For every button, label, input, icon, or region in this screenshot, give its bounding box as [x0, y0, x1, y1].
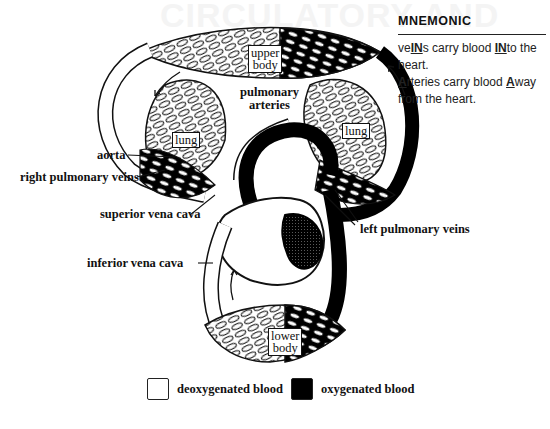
superior-vena-cava-label: superior vena cava — [100, 207, 200, 222]
upper-body-label: upper body — [248, 45, 282, 73]
inferior-vena-cava-label: inferior vena cava — [87, 256, 183, 271]
veins-mid: s carry blood — [423, 41, 495, 55]
pulmonary-arteries-label: pulmonary arteries — [240, 86, 299, 112]
legend-deoxygenated-label: deoxygenated blood — [177, 382, 283, 397]
legend-oxygenated-label: oxygenated blood — [321, 382, 414, 397]
mnemonic-box: MNEMONIC veINs carry blood INto the hear… — [398, 14, 546, 108]
mnemonic-body: veINs carry blood INto the heart. Arteri… — [398, 40, 546, 108]
right-pulmonary-veins-label: right pulmonary veins — [20, 170, 139, 185]
lower-body-line2: body — [271, 342, 299, 354]
legend: deoxygenated blood oxygenated blood — [147, 378, 422, 400]
aorta-label: aorta — [97, 148, 125, 163]
lower-body-label: lower body — [268, 328, 302, 356]
arteries-mid: rteries carry blood — [407, 75, 506, 89]
veins-emphasis-1: IN — [411, 41, 423, 55]
mnemonic-arteries-line: Arteries carry blood Away from the heart… — [398, 74, 546, 108]
veins-emphasis-2: IN — [495, 41, 507, 55]
lung-right-label: lung — [342, 123, 370, 139]
pulmonary-arteries-line2: arteries — [240, 99, 299, 112]
veins-pre: ve — [398, 41, 411, 55]
lung-left-label: lung — [172, 132, 200, 148]
arteries-emphasis-2: A — [506, 75, 515, 89]
arteries-emphasis-1: A — [398, 75, 407, 89]
oxygenated-swatch — [291, 378, 313, 400]
mnemonic-title: MNEMONIC — [398, 14, 546, 35]
left-pulmonary-veins-label: left pulmonary veins — [360, 222, 470, 237]
mnemonic-veins-line: veINs carry blood INto the heart. — [398, 40, 546, 74]
deoxygenated-swatch — [147, 378, 169, 400]
upper-body-line2: body — [251, 59, 279, 71]
